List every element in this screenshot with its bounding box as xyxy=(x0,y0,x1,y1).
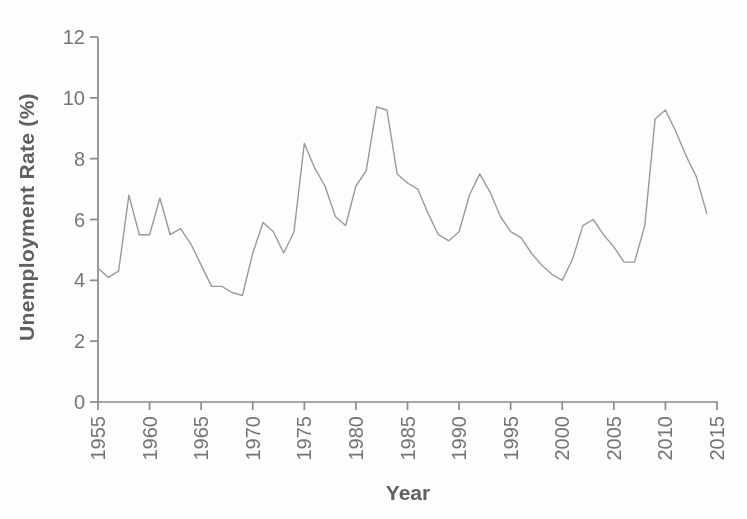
chart-figure: 0246810121955196019651970197519801985199… xyxy=(0,0,747,519)
y-tick-label: 6 xyxy=(74,209,85,231)
x-tick-label: 1995 xyxy=(500,416,522,461)
y-tick-label: 10 xyxy=(63,87,85,109)
unemployment-line-chart: 0246810121955196019651970197519801985199… xyxy=(0,0,747,519)
x-tick-label: 2010 xyxy=(654,416,676,461)
x-tick-label: 1965 xyxy=(190,416,212,461)
y-tick-label: 12 xyxy=(63,26,85,48)
x-tick-label: 1985 xyxy=(397,416,419,461)
x-tick-label: 1960 xyxy=(139,416,161,461)
data-line xyxy=(98,107,707,296)
y-tick-label: 8 xyxy=(74,148,85,170)
x-tick-label: 1955 xyxy=(87,416,109,461)
x-tick-label: 1990 xyxy=(448,416,470,461)
x-tick-label: 2005 xyxy=(603,416,625,461)
y-tick-label: 4 xyxy=(74,269,85,291)
x-tick-label: 1980 xyxy=(345,416,367,461)
x-tick-label: 2015 xyxy=(706,416,728,461)
x-axis-title: Year xyxy=(386,481,430,505)
y-tick-label: 2 xyxy=(74,330,85,352)
y-tick-label: 0 xyxy=(74,391,85,413)
y-axis-title: Unemployment Rate (%) xyxy=(15,93,39,341)
x-tick-label: 1975 xyxy=(293,416,315,461)
x-tick-label: 1970 xyxy=(242,416,264,461)
x-tick-label: 2000 xyxy=(551,416,573,461)
